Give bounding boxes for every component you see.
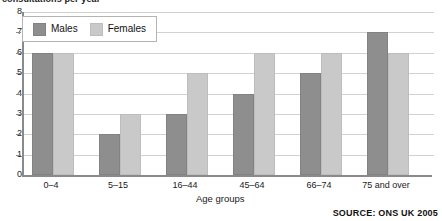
bar-males-3[interactable] <box>233 94 254 176</box>
bar-females-0[interactable] <box>53 53 74 175</box>
x-tick-label: 16–44 <box>152 180 218 190</box>
y-tick-mark <box>16 134 21 135</box>
legend-item-females[interactable]: Females <box>90 23 146 36</box>
bar-males-4[interactable] <box>300 73 321 175</box>
bar-females-5[interactable] <box>388 53 409 175</box>
chart-legend: Males Females <box>22 16 157 42</box>
bar-males-1[interactable] <box>99 134 120 175</box>
bar-females-2[interactable] <box>187 73 208 175</box>
x-tick-label: 0–4 <box>18 180 84 190</box>
legend-label-males: Males <box>51 24 78 34</box>
y-tick-label: 8 <box>8 7 22 16</box>
y-tick-mark <box>16 53 21 54</box>
females-swatch-icon <box>90 23 103 36</box>
x-axis-title: Age groups <box>196 194 245 204</box>
y-tick-mark <box>16 114 21 115</box>
bar-males-5[interactable] <box>367 32 388 175</box>
y-tick-mark <box>16 94 21 95</box>
legend-label-females: Females <box>108 24 146 34</box>
bar-females-4[interactable] <box>321 53 342 175</box>
x-tick-label: 66–74 <box>286 180 352 190</box>
x-tick-label: 45–64 <box>219 180 285 190</box>
x-axis-tick-labels: 0–45–1516–4445–6466–7475 and over <box>22 180 432 194</box>
y-tick-mark <box>16 73 21 74</box>
bar-males-0[interactable] <box>32 53 53 175</box>
legend-item-males[interactable]: Males <box>33 23 78 36</box>
y-tick-label: 0 <box>8 170 22 179</box>
x-tick-label: 75 and over <box>353 180 419 190</box>
males-swatch-icon <box>33 23 46 36</box>
y-tick-mark <box>16 155 21 156</box>
bar-females-1[interactable] <box>120 114 141 175</box>
y-tick-mark <box>16 32 21 33</box>
x-tick-label: 5–15 <box>85 180 151 190</box>
bar-males-2[interactable] <box>166 114 187 175</box>
source-note: SOURCE: ONS UK 2005 <box>333 208 438 218</box>
bar-females-3[interactable] <box>254 53 275 175</box>
